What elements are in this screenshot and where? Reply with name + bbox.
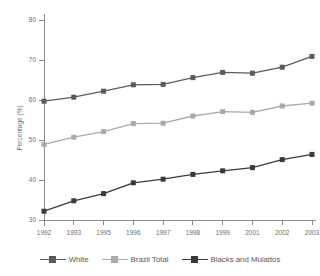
- y-tick-label: 60: [29, 96, 37, 103]
- data-point-marker: [131, 121, 136, 126]
- legend-swatch-brazil-total: [102, 255, 128, 264]
- data-point-marker: [190, 75, 195, 80]
- data-point-marker: [310, 152, 315, 157]
- data-point-marker: [250, 110, 255, 115]
- data-point-marker: [161, 82, 166, 87]
- legend-item-blacks-and-mulattos[interactable]: Blacks and Mulattos: [182, 255, 281, 264]
- data-point-marker: [101, 191, 106, 196]
- legend-marker-white: [49, 256, 56, 263]
- data-point-marker: [280, 157, 285, 162]
- plot-area: 304050607080 199219931995199619971998199…: [0, 0, 320, 246]
- data-point-marker: [161, 121, 166, 126]
- data-point-marker: [101, 89, 106, 94]
- y-tick-label: 30: [29, 216, 37, 223]
- x-tick-label: 1997: [156, 229, 171, 236]
- legend-swatch-white: [40, 255, 66, 264]
- series-blacks-and-mulattos: [42, 152, 315, 214]
- legend-swatch-blacks-and-mulattos: [182, 255, 208, 264]
- data-point-marker: [101, 129, 106, 134]
- x-tick-label: 2002: [275, 229, 290, 236]
- legend-marker-blacks-and-mulattos: [191, 256, 198, 263]
- x-axis: 1992199319951996199719981999200120022003: [37, 220, 320, 236]
- data-point-marker: [310, 54, 315, 59]
- x-tick-label: 1998: [186, 229, 201, 236]
- data-point-marker: [310, 101, 315, 106]
- legend-item-white[interactable]: White: [40, 255, 89, 264]
- data-point-marker: [161, 177, 166, 182]
- chart-canvas: 304050607080 199219931995199619971998199…: [0, 0, 320, 246]
- x-tick-label: 1995: [96, 229, 111, 236]
- chart-legend: White Brazil Total Blacks and Mulattos: [0, 248, 320, 270]
- data-point-marker: [220, 109, 225, 114]
- series-brazil-total: [42, 101, 315, 147]
- y-axis-title: Percentage (%): [16, 105, 24, 150]
- data-series-group: [42, 54, 315, 214]
- data-point-marker: [250, 71, 255, 76]
- y-tick-label: 50: [29, 136, 37, 143]
- legend-label-brazil-total: Brazil Total: [131, 255, 169, 264]
- data-point-marker: [42, 142, 47, 147]
- y-tick-label: 80: [29, 16, 37, 23]
- data-point-marker: [42, 209, 47, 214]
- legend-label-white: White: [69, 255, 89, 264]
- data-point-marker: [190, 172, 195, 177]
- data-point-marker: [280, 65, 285, 70]
- y-tick-label: 40: [29, 176, 37, 183]
- data-point-marker: [250, 165, 255, 170]
- data-point-marker: [131, 82, 136, 87]
- legend-marker-brazil-total: [111, 256, 118, 263]
- line-chart: 304050607080 199219931995199619971998199…: [0, 0, 320, 276]
- x-tick-label: 1996: [126, 229, 141, 236]
- data-point-marker: [42, 99, 47, 104]
- data-point-marker: [71, 198, 76, 203]
- series-line: [44, 103, 312, 144]
- series-line: [44, 56, 312, 101]
- series-line: [44, 154, 312, 211]
- data-point-marker: [220, 70, 225, 75]
- x-tick-label: 1999: [215, 229, 230, 236]
- x-tick-label: 1992: [37, 229, 52, 236]
- y-axis: 304050607080: [29, 14, 44, 226]
- x-tick-label: 2001: [245, 229, 260, 236]
- series-white: [42, 54, 315, 104]
- data-point-marker: [71, 95, 76, 100]
- data-point-marker: [71, 135, 76, 140]
- data-point-marker: [280, 104, 285, 109]
- x-tick-label: 2003: [305, 229, 320, 236]
- data-point-marker: [190, 114, 195, 119]
- legend-label-blacks-and-mulattos: Blacks and Mulattos: [211, 255, 281, 264]
- x-tick-label: 1993: [67, 229, 82, 236]
- data-point-marker: [131, 180, 136, 185]
- legend-item-brazil-total[interactable]: Brazil Total: [102, 255, 169, 264]
- data-point-marker: [220, 168, 225, 173]
- y-tick-label: 70: [29, 56, 37, 63]
